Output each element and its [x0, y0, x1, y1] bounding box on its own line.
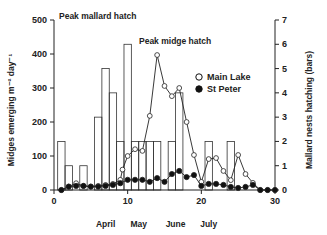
annotations: Peak mallard hatchPeak midge hatch: [59, 11, 211, 46]
x-tick-label: 10: [123, 196, 133, 206]
annotation-peak-midge: Peak midge hatch: [139, 36, 211, 46]
filled-circle-marker: [250, 182, 255, 187]
filled-circle-marker: [199, 183, 204, 188]
axis-labels: 0100200300400500012345670102030AprilMayJ…: [32, 15, 287, 229]
filled-circle-marker: [155, 176, 160, 181]
open-circle-marker: [155, 53, 160, 58]
x-tick-label: 0: [51, 196, 56, 206]
axes: [50, 20, 279, 194]
filled-circle-marker: [236, 185, 241, 190]
filled-circle-marker: [103, 183, 108, 188]
nest-bar: [153, 141, 160, 190]
nest-bars: [58, 44, 235, 190]
filled-circle-marker: [81, 183, 86, 188]
y2-tick-label: 5: [282, 64, 287, 74]
filled-circle-marker: [272, 187, 277, 192]
nest-bar: [109, 93, 116, 190]
open-circle-marker: [206, 157, 211, 162]
filled-circle-marker: [184, 174, 189, 179]
chart: 0100200300400500012345670102030AprilMayJ…: [0, 0, 327, 235]
legend-label: St Peter: [207, 84, 242, 94]
y2-axis-title: Mallard nests hatching (bars): [304, 51, 314, 169]
filled-circle-marker: [243, 184, 248, 189]
legend: Main LakeSt Peter: [196, 72, 251, 94]
month-label: April: [96, 219, 115, 229]
annotation-peak-mallard: Peak mallard hatch: [59, 11, 136, 21]
filled-circle-marker: [258, 187, 263, 192]
y-tick-label: 100: [32, 151, 47, 161]
filled-circle-marker: [228, 184, 233, 189]
y2-tick-label: 2: [282, 136, 287, 146]
y-tick-label: 400: [32, 49, 47, 59]
open-circle-marker: [177, 86, 182, 91]
y-tick-label: 0: [42, 185, 47, 195]
nest-bar: [168, 141, 175, 190]
filled-circle-marker: [191, 172, 196, 177]
y2-tick-label: 7: [282, 15, 287, 25]
y-tick-label: 300: [32, 83, 47, 93]
month-label: July: [200, 219, 217, 229]
x-tick-label: 30: [270, 196, 280, 206]
month-label: June: [166, 219, 186, 229]
open-circle-marker: [184, 120, 189, 125]
open-circle-marker: [169, 94, 174, 99]
y2-tick-label: 4: [282, 88, 287, 98]
filled-circle-marker: [162, 179, 167, 184]
y2-tick-label: 3: [282, 112, 287, 122]
y2-tick-label: 1: [282, 161, 287, 171]
y-tick-label: 200: [32, 117, 47, 127]
nest-bar: [102, 69, 109, 190]
open-circle-marker: [228, 178, 233, 183]
open-circle-marker: [221, 169, 226, 174]
y-axis-title: Midges emerging m⁻² day⁻¹: [6, 54, 16, 167]
filled-circle-marker: [96, 184, 101, 189]
filled-circle-marker: [88, 184, 93, 189]
filled-circle-marker: [110, 182, 115, 187]
legend-label: Main Lake: [207, 72, 251, 82]
nest-bar: [124, 44, 131, 190]
y-tick-label: 500: [32, 15, 47, 25]
x-tick-label: 20: [196, 196, 206, 206]
open-circle-marker: [162, 84, 167, 89]
open-circle-marker: [120, 167, 125, 172]
filled-circle-icon: [196, 86, 202, 92]
nest-bar: [95, 117, 102, 190]
filled-circle-marker: [265, 187, 270, 192]
filled-circle-marker: [66, 184, 71, 189]
y2-tick-label: 0: [282, 185, 287, 195]
filled-circle-marker: [177, 168, 182, 173]
nest-bar: [176, 93, 183, 190]
open-circle-marker: [236, 153, 241, 158]
filled-circle-marker: [213, 181, 218, 186]
open-circle-marker: [214, 156, 219, 161]
filled-circle-marker: [132, 177, 137, 182]
open-circle-marker: [140, 149, 145, 154]
month-label: May: [130, 219, 147, 229]
open-circle-marker: [133, 147, 138, 152]
open-circle-marker: [147, 113, 152, 118]
nest-bar: [58, 141, 65, 190]
open-circle-marker: [243, 172, 248, 177]
open-circle-marker: [125, 154, 130, 159]
open-circle-icon: [196, 74, 202, 80]
open-circle-marker: [192, 153, 197, 158]
filled-circle-marker: [206, 181, 211, 186]
y2-tick-label: 6: [282, 39, 287, 49]
filled-circle-marker: [59, 187, 64, 192]
filled-circle-marker: [125, 177, 130, 182]
filled-circle-marker: [147, 179, 152, 184]
filled-circle-marker: [140, 177, 145, 182]
filled-circle-marker: [74, 183, 79, 188]
filled-circle-marker: [169, 171, 174, 176]
filled-circle-marker: [221, 182, 226, 187]
filled-circle-marker: [118, 181, 123, 186]
